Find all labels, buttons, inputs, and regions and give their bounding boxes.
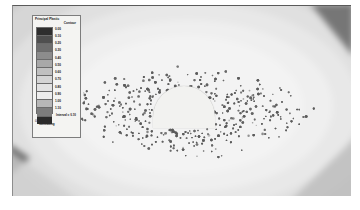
legend-tick-label: 0.80 (55, 84, 82, 91)
legend-swatch (37, 107, 52, 115)
legend-swatch (37, 83, 52, 91)
legend-swatch (37, 67, 52, 75)
legend-scale: 0.000.100.200.300.400.500.600.700.800.90… (35, 27, 78, 114)
legend-tick-label: 0.10 (55, 33, 82, 40)
legend-tick-label: 0.20 (55, 40, 82, 47)
figure-container: Principal Plastic Contour 0.000.100.200.… (0, 0, 360, 210)
legend-tick-label: 1.00 (55, 98, 82, 105)
legend-tick-label: 0.50 (55, 62, 82, 69)
plot-frame: Principal Plastic Contour 0.000.100.200.… (12, 5, 351, 196)
legend-swatch (37, 35, 52, 43)
legend-swatch (37, 59, 52, 67)
legend-swatch (37, 28, 52, 35)
legend-tick-label: 0.30 (55, 47, 82, 54)
legend-tick-label: 0.70 (55, 76, 82, 83)
legend-swatch (37, 43, 52, 51)
legend-tick-label: 0.00 (55, 26, 82, 33)
legend-swatch (37, 75, 52, 83)
legend-swatch (37, 51, 52, 59)
legend-swatch (37, 91, 52, 99)
legend-colorbar (36, 27, 53, 114)
legend-swatch (37, 116, 52, 124)
legend-tick-labels: 0.000.100.200.300.400.500.600.700.800.90… (55, 26, 82, 114)
legend-tick-label: 0.60 (55, 69, 82, 76)
legend-box: Principal Plastic Contour 0.000.100.200.… (32, 15, 81, 138)
legend-swatch (37, 99, 52, 107)
legend-tick-label: 0.40 (55, 55, 82, 62)
legend-tick-label: 1.10 (55, 105, 82, 112)
legend-tick-label: 0.90 (55, 91, 82, 98)
